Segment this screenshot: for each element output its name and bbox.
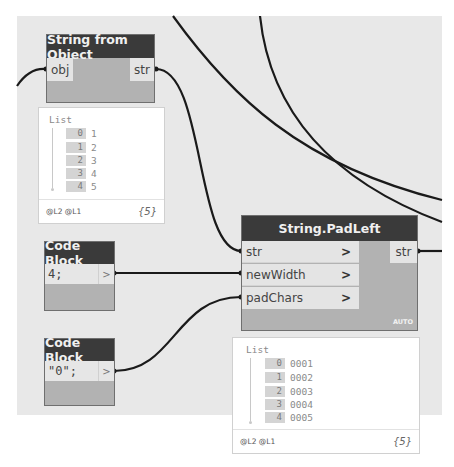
output-port-str[interactable]: str — [130, 58, 154, 81]
node-string-from-object[interactable]: String from Object obj str — [46, 34, 155, 103]
port-label: padChars — [246, 291, 303, 305]
preview-bubble-string-from-object[interactable]: List 01 12 23 34 45 @L2 @L1 {5} — [38, 107, 165, 224]
output-port[interactable]: > — [98, 361, 114, 381]
list-item: 20003 — [265, 385, 313, 397]
item-count: {5} — [138, 206, 157, 217]
chevron-right-icon: > — [341, 291, 351, 305]
port-label: str — [246, 245, 262, 259]
node-title[interactable]: Code Block — [45, 339, 114, 361]
preview-tree-end — [51, 188, 54, 191]
list-item: 30004 — [265, 398, 313, 410]
list-item: 34 — [66, 167, 97, 179]
list-item: 10002 — [265, 371, 313, 383]
list-item: 23 — [66, 154, 97, 166]
lacing-badge[interactable]: AUTO — [393, 318, 413, 326]
input-port-newwidth[interactable]: newWidth > — [242, 264, 359, 286]
node-code-block-2[interactable]: Code Block "0"; > — [44, 338, 115, 406]
node-title[interactable]: String.PadLeft — [242, 216, 417, 241]
list-levels[interactable]: @L2 @L1 — [240, 437, 275, 446]
output-port[interactable]: > — [98, 264, 114, 284]
preview-list-label: List — [49, 114, 72, 125]
port-label: newWidth — [246, 268, 306, 282]
input-port-padchars[interactable]: padChars > — [242, 287, 359, 309]
list-item: 01 — [66, 127, 97, 139]
chevron-right-icon: > — [341, 268, 351, 282]
item-count: {5} — [393, 436, 412, 447]
node-title[interactable]: String from Object — [47, 35, 154, 58]
list-item: 00001 — [265, 357, 313, 369]
list-item: 40005 — [265, 411, 313, 423]
node-string-padleft[interactable]: String.PadLeft str > newWidth > padChars… — [241, 215, 418, 331]
preview-list-label: List — [246, 344, 269, 355]
input-port-str[interactable]: str > — [242, 241, 359, 263]
preview-footer: @L2 @L1 {5} — [233, 429, 419, 453]
preview-bubble-padleft[interactable]: List 00001 10002 20003 30004 40005 @L2 @… — [232, 337, 420, 454]
node-title[interactable]: Code Block — [45, 242, 114, 264]
node-code-block-1[interactable]: Code Block 4; > — [44, 241, 115, 311]
code-editor[interactable]: "0"; — [45, 361, 98, 381]
chevron-right-icon: > — [341, 245, 351, 259]
list-levels[interactable]: @L2 @L1 — [46, 207, 81, 216]
preview-footer: @L2 @L1 {5} — [39, 199, 164, 223]
list-item: 12 — [66, 141, 97, 153]
input-port-obj[interactable]: obj — [47, 58, 73, 81]
preview-tree-end — [249, 421, 252, 424]
list-item: 45 — [66, 180, 97, 192]
preview-tree-line — [52, 128, 53, 188]
output-port-str[interactable]: str — [390, 241, 417, 263]
preview-tree-line — [250, 358, 251, 421]
code-editor[interactable]: 4; — [45, 264, 98, 284]
